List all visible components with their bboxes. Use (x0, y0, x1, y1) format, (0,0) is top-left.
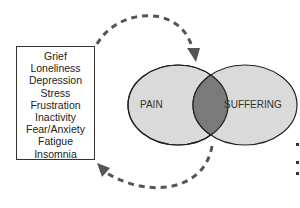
pain-label: PAIN (140, 99, 163, 110)
edge-mark-3 (296, 172, 299, 175)
list-item: Stress (16, 87, 95, 99)
factors-list: Grief Loneliness Depression Stress Frust… (16, 50, 95, 160)
list-item: Grief (16, 50, 95, 62)
list-item: Insomnia (16, 148, 95, 160)
list-item: Depression (16, 74, 95, 86)
suffering-label: SUFFERING (224, 99, 282, 110)
bottom-dashed-arrow (105, 146, 212, 188)
list-item: Fatigue (16, 135, 95, 147)
edge-mark-1 (296, 143, 299, 146)
list-item: Inactivity (16, 111, 95, 123)
arrowhead-down-icon (187, 48, 200, 62)
edge-mark-2 (296, 161, 299, 164)
list-item: Frustration (16, 99, 95, 111)
list-item: Fear/Anxiety (16, 123, 95, 135)
list-item: Loneliness (16, 62, 95, 74)
top-dashed-arrow (97, 16, 193, 52)
